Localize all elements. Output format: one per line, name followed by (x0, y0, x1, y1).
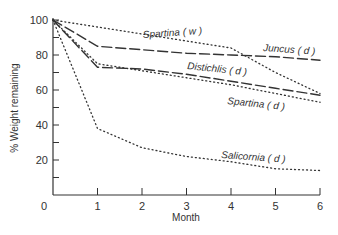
x-tick-label: 3 (183, 200, 189, 212)
x-tick-label: 0 (41, 200, 47, 212)
y-axis-title: % Weight remaining (9, 63, 20, 152)
x-tick-label: 4 (228, 200, 234, 212)
y-tick-label: 20 (36, 154, 48, 166)
x-tick-label: 5 (272, 200, 278, 212)
y-tick-label: 80 (36, 49, 48, 61)
series-label-1: Juncus ( d ) (262, 42, 316, 57)
x-tick-label: 2 (139, 200, 145, 212)
y-tick-label: 60 (36, 84, 48, 96)
series-label-2: Distichlis ( d ) (187, 60, 248, 77)
series-labels: Spartina ( w )Juncus ( d )Distichlis ( d… (142, 25, 315, 165)
x-tick-label: 1 (94, 200, 100, 212)
series-label-3: Spartina ( d ) (227, 95, 286, 112)
y-tick-label: 40 (36, 119, 48, 131)
y-tick-label: 100 (30, 14, 48, 26)
x-axis-title: Month (172, 212, 200, 223)
decomposition-line-chart: 012345620406080100 Spartina ( w )Juncus … (0, 0, 338, 235)
series-label-0: Spartina ( w ) (142, 25, 202, 40)
x-tick-label: 6 (317, 200, 323, 212)
